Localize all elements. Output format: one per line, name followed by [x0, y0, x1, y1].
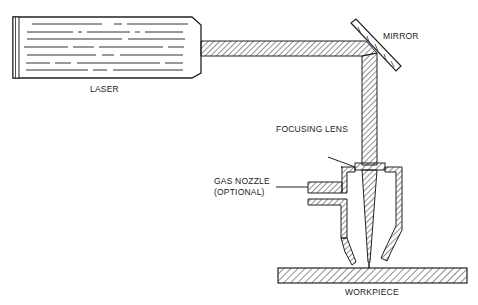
focusing-lens-label: FOCUSING LENS [276, 124, 348, 134]
workpiece-label: WORKPIECE [345, 287, 399, 297]
vertical-beam [362, 53, 377, 165]
diagram-canvas [0, 0, 478, 305]
focusing-lens [355, 163, 385, 170]
gas-nozzle-housing [308, 167, 402, 265]
focused-beam-cone [362, 170, 377, 268]
gas-nozzle-optional-label: (OPTIONAL) [214, 187, 265, 197]
horizontal-beam [201, 41, 377, 56]
workpiece [278, 268, 467, 283]
mirror-label: MIRROR [383, 31, 419, 41]
laser-label: LASER [90, 84, 119, 94]
gas-nozzle-label: GAS NOZZLE [214, 176, 270, 186]
laser-diagram: LASER MIRROR FOCUSING LENS GAS NOZZLE (O… [0, 0, 478, 305]
laser-body [13, 17, 201, 78]
focusing-lens-leader [328, 157, 355, 167]
